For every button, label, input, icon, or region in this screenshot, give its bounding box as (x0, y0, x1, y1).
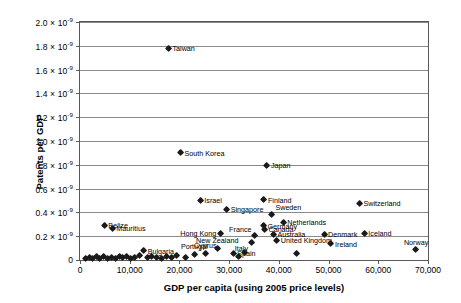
y-tick-label: 0.4 × 10-9 (36, 206, 73, 218)
x-tick-label: 70,000 (415, 265, 441, 275)
x-tick-label: 20,000 (166, 265, 192, 275)
data-point-label: Ireland (335, 241, 357, 248)
y-tick-label: 1.0 × 10-9 (36, 135, 73, 147)
x-tick-mark (329, 260, 330, 264)
x-tick-mark (378, 260, 379, 264)
y-tick-mark (76, 165, 80, 166)
diamond-marker-icon (248, 239, 255, 246)
y-gridline (80, 165, 428, 166)
y-tick-mark (76, 22, 80, 23)
diamond-marker-icon (356, 200, 363, 207)
data-point-label: Israel (204, 197, 222, 204)
y-tick-mark (76, 93, 80, 94)
data-point-label: Iceland (368, 230, 391, 237)
y-tick-label: 1.8 × 10-9 (36, 40, 73, 52)
diamond-marker-icon (327, 240, 334, 247)
y-gridline (80, 93, 428, 94)
y-tick-label: 0.2 × 10-9 (36, 230, 73, 242)
y-gridline (80, 189, 428, 190)
y-tick-mark (76, 189, 80, 190)
y-tick-mark (76, 141, 80, 142)
x-tick-label: 30,000 (216, 265, 242, 275)
data-point-label: Portugal (181, 243, 208, 250)
diamond-marker-icon (263, 162, 270, 169)
data-point-label: South Korea (184, 150, 224, 157)
diamond-marker-icon (177, 149, 184, 156)
y-tick-mark (76, 46, 80, 47)
data-point-label: Mauritius (116, 225, 145, 232)
diamond-marker-icon (191, 251, 198, 258)
y-tick-label: 0.6 × 10-9 (36, 183, 73, 195)
diamond-marker-icon (197, 197, 204, 204)
y-tick-label: 0.8 × 10-9 (36, 159, 73, 171)
x-tick-label: 0 (78, 265, 83, 275)
data-point-label: Denmark (328, 231, 357, 238)
x-tick-mark (229, 260, 230, 264)
x-tick-mark (80, 260, 81, 264)
x-tick-mark (279, 260, 280, 264)
y-gridline (80, 70, 428, 71)
y-tick-label: 1.2 × 10-9 (36, 111, 73, 123)
data-point-label: Sweden (275, 204, 301, 211)
y-tick-mark (76, 117, 80, 118)
diamond-marker-icon (101, 222, 108, 229)
data-point-label: Switzerland (363, 200, 400, 207)
x-tick-label: 50,000 (316, 265, 342, 275)
y-axis-title: Patents per GDP (34, 114, 45, 189)
x-tick-label: 10,000 (117, 265, 143, 275)
data-point-label: United Kingdom (281, 237, 332, 244)
scatter-chart-figure: Patents per GDP 00.2 × 10-90.4 × 10-90.6… (0, 0, 461, 303)
data-point-label: Taiwan (172, 45, 194, 52)
y-tick-label: 1.4 × 10-9 (36, 87, 73, 99)
diamond-marker-icon (293, 250, 300, 257)
y-gridline (80, 117, 428, 118)
plot-area: 00.2 × 10-90.4 × 10-90.6 × 10-90.8 × 10-… (79, 21, 429, 261)
data-point-label: France (229, 226, 251, 233)
x-tick-label: 60,000 (365, 265, 391, 275)
y-tick-label: 2.0 × 10-9 (36, 16, 73, 28)
data-point-label: Japan (271, 162, 291, 169)
data-point-label: Norway (404, 239, 428, 246)
x-tick-label: 40,000 (266, 265, 292, 275)
y-tick-label: 1.6 × 10-9 (36, 64, 73, 76)
y-tick-mark (76, 236, 80, 237)
data-point-label: Singapore (231, 206, 264, 213)
diamond-marker-icon (260, 196, 267, 203)
y-gridline (80, 46, 428, 47)
y-tick-mark (76, 212, 80, 213)
x-axis-title: GDP per capita (using 2005 price levels) (79, 282, 429, 293)
y-gridline (80, 141, 428, 142)
diamond-marker-icon (182, 254, 189, 261)
x-tick-mark (179, 260, 180, 264)
y-tick-mark (76, 70, 80, 71)
x-tick-mark (428, 260, 429, 264)
diamond-marker-icon (412, 246, 419, 253)
y-gridline (80, 22, 428, 23)
y-tick-label: 0 (68, 255, 73, 265)
